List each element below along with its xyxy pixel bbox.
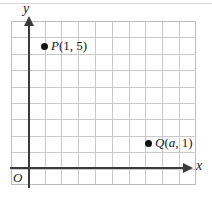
- origin-label: O: [13, 171, 22, 184]
- grid-line-horizontal: [11, 37, 196, 38]
- grid-line-horizontal: [11, 21, 196, 22]
- grid-line-horizontal: [11, 103, 196, 104]
- grid-line-horizontal: [11, 70, 196, 71]
- grid-line-horizontal: [11, 119, 196, 120]
- point-p-dot: [41, 43, 48, 50]
- point-q-label: Q(a, 1): [155, 136, 193, 149]
- x-axis-arrow-icon: [183, 163, 193, 173]
- point-q-coords-rest: , 1): [175, 135, 192, 150]
- x-axis-label: x: [196, 159, 202, 173]
- y-axis-line: [28, 22, 30, 188]
- page-scan-line: [0, 3, 212, 4]
- grid-line-horizontal: [11, 87, 196, 88]
- grid-line-horizontal: [11, 184, 196, 185]
- grid-line-horizontal: [11, 152, 196, 153]
- point-q-name: Q: [155, 135, 164, 150]
- grid-line-horizontal: [11, 54, 196, 55]
- figure-canvas: y x O P(1, 5) Q(a, 1): [0, 0, 212, 199]
- point-q-dot: [145, 140, 152, 147]
- coordinate-grid: [11, 21, 196, 185]
- point-p-coords: (1, 5): [59, 38, 87, 53]
- point-p-label: P(1, 5): [51, 39, 87, 52]
- x-axis-line: [10, 167, 184, 169]
- y-axis-label: y: [23, 2, 29, 16]
- y-axis-arrow-icon: [24, 16, 34, 26]
- point-p-name: P: [51, 38, 59, 53]
